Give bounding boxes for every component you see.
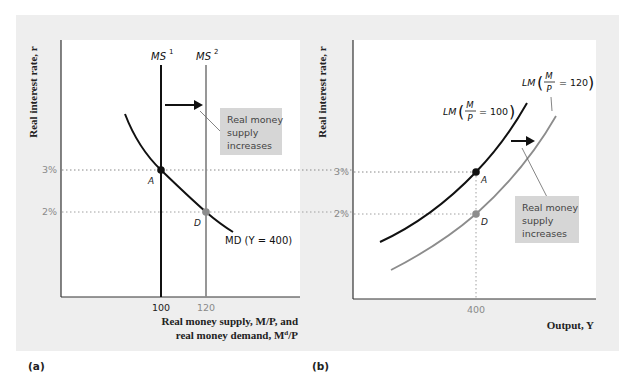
svg-text:= 100: = 100 (479, 106, 508, 117)
ms2-label: MS (196, 51, 212, 62)
svg-text:(: ( (537, 73, 543, 92)
ms1-label: MS (151, 51, 167, 62)
plot-area-a (61, 40, 300, 297)
svg-text:P: P (546, 84, 552, 94)
svg-text:M: M (545, 71, 553, 81)
panel-label-b: (b) (312, 360, 329, 372)
ms2-sup: 2 (214, 48, 218, 56)
point-a-marker-a (157, 166, 165, 174)
callout-text-a-3: increases (227, 140, 272, 151)
y-tick-3pct-b: 3% (334, 166, 349, 177)
money-market-lm-figure: Real money supply increases MS 1 MS 2 MD… (0, 0, 634, 382)
svg-text:(: ( (458, 102, 464, 121)
svg-text:LM: LM (443, 106, 457, 117)
point-d-marker-a (202, 208, 210, 216)
y-tick-2pct-a: 2% (42, 206, 57, 217)
point-a-marker-b (472, 168, 480, 176)
point-a-label-b: A (480, 175, 487, 185)
y-axis-label-b: Real interest rate, r (316, 46, 328, 138)
svg-text:LM: LM (522, 77, 536, 88)
y-tick-2pct-b: 2% (334, 208, 349, 219)
x-tick-120: 120 (197, 302, 215, 313)
point-d-marker-b (472, 210, 480, 218)
svg-text:): ) (509, 102, 515, 121)
point-d-label-b: D (481, 217, 488, 227)
callout-text-b-1: Real money (522, 202, 578, 213)
point-d-label-a: D (194, 218, 201, 228)
x-tick-400: 400 (467, 304, 485, 315)
callout-text-b-3: increases (522, 228, 567, 239)
svg-text:= 120: = 120 (559, 77, 588, 88)
svg-text:): ) (588, 73, 594, 92)
md-label: MD (Y = 400) (225, 235, 292, 246)
x-axis-label-a-line2: real money demand, Md/P (176, 329, 299, 341)
x-tick-100: 100 (152, 302, 170, 313)
ms1-sup: 1 (169, 48, 173, 56)
svg-text:M: M (466, 100, 474, 110)
callout-text-b-2: supply (522, 215, 554, 226)
svg-text:P: P (467, 113, 473, 123)
callout-text-a-2: supply (227, 127, 259, 138)
x-axis-label-a-line1: Real money supply, M/P, and (161, 315, 298, 327)
callout-text-a-1: Real money (227, 114, 283, 125)
panel-label-a: (a) (28, 360, 45, 372)
y-tick-3pct-a: 3% (42, 164, 57, 175)
point-a-label-a: A (147, 176, 154, 186)
x-axis-label-b: Output, Y (547, 319, 594, 331)
y-axis-label-a: Real interest rate, r (27, 46, 39, 138)
